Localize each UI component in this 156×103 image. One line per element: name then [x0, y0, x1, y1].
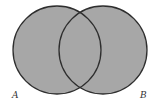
venn-diagram: A B [0, 0, 156, 103]
set-b-label: B [139, 90, 147, 100]
shaded-union [13, 6, 147, 94]
set-a-label: A [11, 90, 19, 100]
